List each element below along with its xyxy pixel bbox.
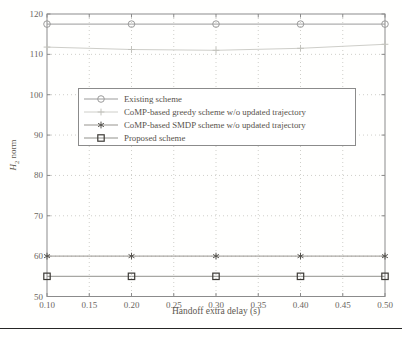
plus-marker [98,108,105,115]
x-axis-label: Handoff extra delay (s) [47,306,385,316]
square-marker-icon [84,132,118,144]
figure: 0.100.150.200.250.300.350.400.450.505060… [0,0,402,340]
legend-label: Proposed scheme [124,133,185,143]
plus-marker [44,44,51,51]
legend-item: CoMP-based greedy scheme w/o updated tra… [79,105,355,118]
y-tick-label: 50 [34,292,44,302]
legend-label: CoMP-based greedy scheme w/o updated tra… [124,107,306,117]
y-axis-label-variable: H [8,164,18,171]
legend-label: Existing scheme [124,94,182,104]
circle-marker-icon [84,93,118,105]
legend-item: CoMP-based SMDP scheme w/o updated traje… [79,118,355,131]
y-tick-label: 120 [30,9,44,19]
plot-svg: 0.100.150.200.250.300.350.400.450.505060… [0,0,402,340]
y-tick-label: 60 [34,251,44,261]
legend-item: Proposed scheme [79,132,355,145]
y-tick-label: 70 [34,211,44,221]
legend: Existing schemeCoMP-based greedy scheme … [78,88,356,146]
plus-marker [213,47,220,54]
bottom-rule [0,328,402,332]
legend-label: CoMP-based SMDP scheme w/o updated traje… [124,120,306,130]
y-tick-label: 80 [34,170,44,180]
plus-marker [297,45,304,52]
y-tick-label: 90 [34,130,44,140]
y-axis-label-subscript: 2 [13,161,20,164]
legend-item: Existing scheme [79,92,355,105]
plus-marker [382,41,389,48]
asterisk-marker-icon [84,119,118,131]
y-tick-label: 110 [30,49,44,59]
y-axis-label: H2 norm [8,124,22,186]
plus-marker [128,46,135,53]
plus-marker-icon [84,106,118,118]
y-axis-label-rest: norm [8,140,18,161]
y-tick-label: 100 [30,90,44,100]
